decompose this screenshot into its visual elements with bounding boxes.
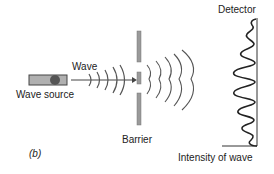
double-slit-diagram: Wave Wave source Barrier Detector Intens… — [0, 0, 274, 174]
barrier-label: Barrier — [122, 135, 152, 145]
intensity-label: Intensity of wave — [178, 153, 252, 163]
wave-source-label: Wave source — [16, 90, 74, 100]
diffracted-wavefronts — [147, 50, 194, 110]
detector-label: Detector — [218, 5, 256, 15]
detector — [222, 18, 257, 146]
wave-label: Wave — [72, 62, 97, 72]
panel-label: (b) — [29, 149, 41, 159]
wave-source — [29, 75, 67, 85]
wave-arrow — [71, 77, 137, 83]
intensity-curve — [234, 19, 257, 146]
diagram-graphics — [0, 0, 274, 174]
barrier — [137, 31, 141, 125]
